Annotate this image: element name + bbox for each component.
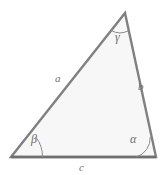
- angle-label-gamma: γ: [115, 31, 120, 43]
- side-label-b: b: [138, 81, 144, 92]
- triangle-figure: a b c α β γ: [0, 0, 166, 175]
- side-label-a: a: [55, 73, 61, 84]
- angle-label-alpha: α: [130, 133, 136, 145]
- angle-label-beta: β: [31, 133, 37, 145]
- side-label-c: c: [79, 162, 84, 173]
